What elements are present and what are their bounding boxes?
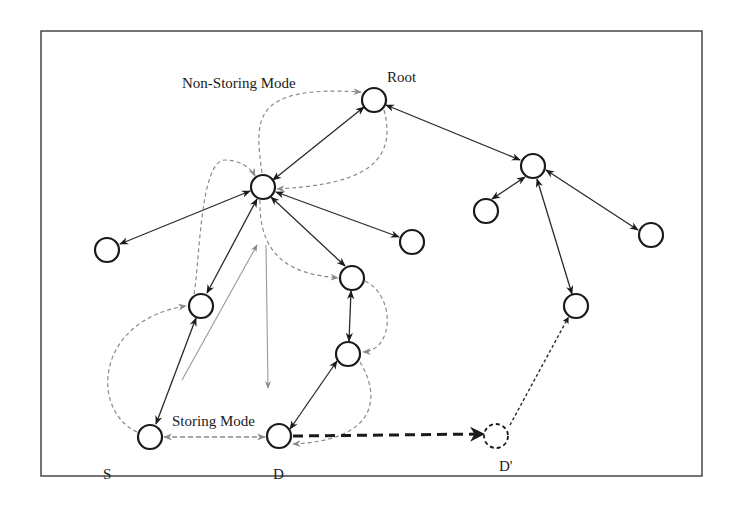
label-root: Root	[387, 69, 417, 85]
label-storing-mode: Storing Mode	[172, 413, 255, 429]
label-destination: D	[273, 466, 284, 482]
node-hub-right-child-3	[564, 294, 588, 318]
node-leaf-right-of-hub	[400, 230, 424, 254]
node-mid-2	[336, 342, 360, 366]
node-d-moved	[484, 424, 508, 448]
node-hub-right	[521, 154, 545, 178]
node-hub-right-child-2	[639, 223, 663, 247]
node-s	[138, 425, 162, 449]
label-source: S	[103, 466, 111, 482]
node-root	[362, 88, 386, 112]
label-non-storing-mode: Non-Storing Mode	[182, 75, 296, 91]
label-destination-moved: D'	[499, 458, 513, 474]
node-hub-right-child-1	[474, 199, 498, 223]
node-leaf-far-left	[95, 238, 119, 262]
node-hub-left	[251, 175, 275, 199]
node-mid-1	[340, 266, 364, 290]
node-parent-of-s	[189, 294, 213, 318]
rpl-mobility-diagram: Non-Storing Mode Root Storing Mode S D D…	[0, 0, 733, 508]
node-d	[267, 424, 291, 448]
